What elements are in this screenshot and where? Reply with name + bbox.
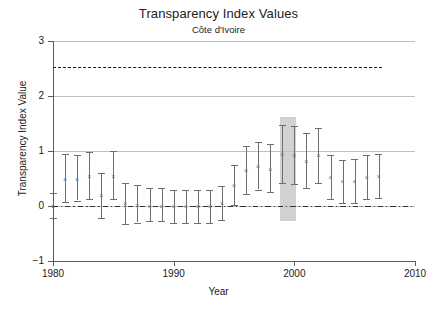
x-axis-title: Year (0, 286, 437, 297)
error-bar-cap-upper (110, 151, 117, 152)
error-bar-cap-upper (206, 190, 213, 191)
y-tick-0 (48, 206, 53, 207)
error-bar-cap-lower (243, 194, 250, 195)
error-bar-cap-upper (243, 146, 250, 147)
data-point-marker: × (123, 200, 127, 207)
error-bar-cap-upper (194, 190, 201, 191)
error-bar-cap-lower (206, 223, 213, 224)
y-tick-1 (48, 151, 53, 152)
error-bar-cap-lower (279, 183, 286, 184)
error-bar-cap-lower (182, 223, 189, 224)
data-point-marker: × (135, 201, 139, 208)
error-bar-cap-lower (255, 190, 262, 191)
gridline-y-3 (53, 41, 415, 42)
error-bar-cap-upper (303, 133, 310, 134)
error-bar-cap-lower (375, 198, 382, 199)
data-point-marker: × (172, 203, 176, 210)
transparency-index-chart: Transparency Index Values Côte d'Ivoire … (0, 0, 437, 310)
error-bar-cap-upper (291, 126, 298, 127)
error-bar-cap-upper (86, 152, 93, 153)
x-tick-label-1980: 1980 (33, 268, 73, 279)
data-point-marker: × (196, 203, 200, 210)
gridline-y-1 (53, 151, 415, 152)
x-tick-label-2000: 2000 (274, 268, 314, 279)
chart-title: Transparency Index Values (0, 6, 437, 21)
error-bar-cap-lower (267, 192, 274, 193)
data-point-marker: × (256, 163, 260, 170)
error-bar-cap-upper (218, 186, 225, 187)
error-bar-cap-upper (363, 155, 370, 156)
x-tick-1980 (53, 261, 54, 266)
error-bar-cap-upper (170, 190, 177, 191)
error-bar-cap-lower (291, 184, 298, 185)
error-bar-cap-upper (231, 165, 238, 166)
error-bar-cap-lower (110, 199, 117, 200)
data-point-marker: × (377, 172, 381, 179)
data-point-marker: × (328, 174, 332, 181)
error-bar-cap-upper (146, 188, 153, 189)
error-bar-cap-upper (134, 185, 141, 186)
x-axis-line (53, 261, 415, 262)
data-point-marker: × (268, 165, 272, 172)
data-point-marker: × (147, 203, 151, 210)
data-point-marker: × (220, 200, 224, 207)
error-bar-cap-upper (158, 188, 165, 189)
error-bar-cap-lower (122, 224, 129, 225)
upper-dashed-reference (53, 67, 382, 68)
data-point-marker: × (353, 178, 357, 185)
zero-reference (53, 206, 415, 207)
data-point-marker: × (292, 152, 296, 159)
plot-area: ×××××××××××××××××××××××××××× (53, 41, 415, 261)
error-bar-cap-upper (182, 190, 189, 191)
chart-subtitle: Côte d'Ivoire (0, 24, 437, 35)
error-bar-cap-lower (315, 183, 322, 184)
data-point-marker: × (87, 172, 91, 179)
error-bar-cap-lower (62, 202, 69, 203)
error-bar-cap-lower (98, 218, 105, 219)
error-bar-cap-lower (134, 223, 141, 224)
x-tick-label-2010: 2010 (395, 268, 435, 279)
data-point-marker: × (316, 152, 320, 159)
error-bar-cap-lower (303, 188, 310, 189)
error-bar-cap-upper (267, 144, 274, 145)
data-point-marker: × (244, 167, 248, 174)
error-bar-cap-lower (86, 199, 93, 200)
data-point-marker: × (304, 157, 308, 164)
error-bar-cap-lower (363, 199, 370, 200)
y-tick-label-3: 3 (20, 35, 44, 46)
data-point-marker: × (160, 203, 164, 210)
error-bar-cap-upper (122, 183, 129, 184)
x-tick-2000 (294, 261, 295, 266)
error-bar-cap-lower (231, 205, 238, 206)
data-point-marker: × (208, 203, 212, 210)
error-bar-cap-lower (218, 220, 225, 221)
y-axis-title: Transparency Index Value (17, 59, 28, 219)
error-bar-cap-upper (74, 155, 81, 156)
error-bar-cap-lower (194, 223, 201, 224)
y-axis-line (53, 41, 54, 261)
error-bar-cap-upper (339, 160, 346, 161)
error-bar-cap-lower (339, 203, 346, 204)
error-bar-cap-upper (62, 154, 69, 155)
error-bar-cap-lower (146, 221, 153, 222)
data-point-marker: × (99, 192, 103, 199)
x-tick-2010 (415, 261, 416, 266)
data-point-marker: × (63, 176, 67, 183)
error-bar-cap-lower (158, 221, 165, 222)
error-bar-cap-lower (351, 203, 358, 204)
x-tick-1990 (174, 261, 175, 266)
error-bar-cap-upper (98, 173, 105, 174)
error-bar-cap-upper (255, 142, 262, 143)
data-point-marker: × (341, 178, 345, 185)
data-point-marker: × (75, 175, 79, 182)
data-point-marker: × (365, 174, 369, 181)
y-tick-2 (48, 96, 53, 97)
x-tick-label-1990: 1990 (154, 268, 194, 279)
error-bar-cap-upper (279, 125, 286, 126)
data-point-marker: × (280, 150, 284, 157)
error-bar-cap-lower (327, 199, 334, 200)
error-bar-cap-upper (375, 154, 382, 155)
error-bar-cap-upper (327, 155, 334, 156)
data-point-marker: × (111, 172, 115, 179)
y-tick-3 (48, 41, 53, 42)
